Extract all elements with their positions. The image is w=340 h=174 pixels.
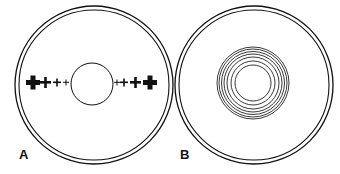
concentric-rings	[217, 47, 289, 119]
diagram-canvas	[0, 0, 340, 174]
panel-label-b: B	[180, 147, 189, 162]
panel-b-figure	[175, 6, 333, 164]
plus-signs-left	[26, 76, 69, 90]
plus-signs-right	[114, 76, 157, 90]
panel-label-a: A	[19, 147, 28, 162]
